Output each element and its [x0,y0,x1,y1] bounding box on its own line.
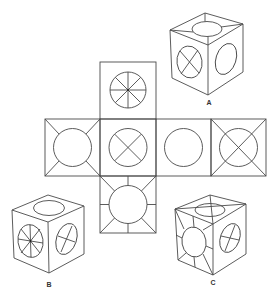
option-cube-c[interactable]: C [175,195,246,286]
net-face-far-right [211,119,266,176]
option-cube-a[interactable]: A [170,13,243,106]
option-cube-b[interactable]: B [12,195,84,288]
net-face-top [100,62,156,119]
option-label-b: B [46,281,51,288]
cube-net [45,62,266,233]
net-face-center [100,119,156,176]
net-face-right [156,119,211,176]
net-face-bottom [100,176,156,233]
cube-puzzle-diagram: A B [0,0,279,293]
net-face-left [45,119,100,176]
option-label-a: A [206,99,211,106]
option-label-c: C [210,279,215,286]
